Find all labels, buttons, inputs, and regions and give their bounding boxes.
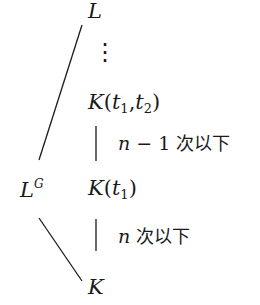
t-var: t bbox=[135, 90, 143, 114]
node-K: K bbox=[88, 277, 104, 298]
node-K-t1-t2: K(t1,t2) bbox=[88, 92, 160, 115]
label-op: − 1 bbox=[130, 132, 176, 154]
node-K-t1: K(t1) bbox=[88, 178, 137, 201]
edge-label-n-minus-1: n − 1 次以下 bbox=[118, 134, 230, 153]
K-base: K bbox=[88, 90, 104, 114]
label-var-n: n bbox=[118, 225, 130, 247]
node-vdots: ⋮ bbox=[93, 40, 117, 64]
vdots-text: ⋮ bbox=[93, 38, 117, 66]
K-base: K bbox=[88, 176, 104, 200]
label-var-n: n bbox=[118, 132, 130, 154]
LG-sup: G bbox=[34, 177, 44, 191]
sub-2: 2 bbox=[144, 101, 152, 116]
label-degree-text: 次以下 bbox=[176, 133, 230, 154]
node-K-text: K bbox=[88, 275, 104, 299]
edge-LG-to-K bbox=[39, 218, 82, 281]
edge-L-to-LG bbox=[39, 25, 82, 160]
node-L: L bbox=[88, 1, 102, 22]
node-L-text: L bbox=[88, 0, 102, 23]
label-degree-text: 次以下 bbox=[136, 226, 190, 247]
node-LG: LG bbox=[20, 178, 44, 201]
sub-1: 1 bbox=[120, 101, 128, 116]
LG-base: L bbox=[20, 178, 34, 202]
sub-1: 1 bbox=[120, 187, 128, 202]
edge-label-n: n 次以下 bbox=[118, 227, 190, 246]
